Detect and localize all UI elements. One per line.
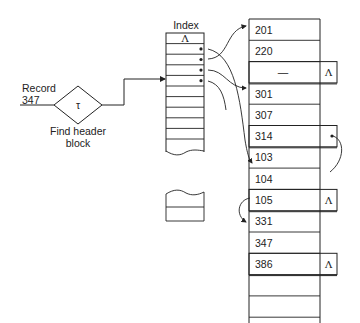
record-key: — (278, 66, 289, 78)
record-key: 301 (255, 88, 273, 100)
block-record-331: 331 (249, 215, 320, 232)
blocks-column: 201220Λ—301307314103104Λ105331347Λ386 (249, 19, 337, 323)
block-record-307: 307 (249, 109, 320, 126)
record-key: 331 (255, 215, 273, 227)
hash-to-index-arrow (102, 79, 165, 105)
block-record-201: 201 (249, 24, 320, 41)
hash-caption-line1: Find header (50, 125, 107, 137)
record-key: 386 (255, 258, 273, 270)
record-label: Record (22, 82, 56, 94)
index-upper-frame (166, 33, 204, 153)
block-record-301: 301 (249, 88, 320, 105)
block-record-104: 104 (249, 173, 320, 190)
pointer-arrow-row2 (208, 26, 246, 59)
record-key: 220 (255, 45, 273, 57)
null-pointer-marker: Λ (324, 259, 333, 270)
index-column: Λ (165, 33, 205, 222)
index-title: Index (173, 19, 199, 31)
block-record-105: Λ105 (249, 189, 337, 211)
overflow-arrow-314 (330, 136, 342, 172)
record-key: 201 (255, 24, 273, 36)
overflow-arrow-105 (239, 198, 250, 222)
block-record-314: 314 (249, 126, 337, 148)
pointer-arrow-row1 (208, 49, 252, 163)
hash-symbol: τ (76, 99, 81, 111)
record-key: 347 (255, 237, 273, 249)
record-key: 104 (255, 173, 273, 185)
block-record-103: 103 (249, 151, 320, 168)
index-pointer-dot (199, 58, 202, 61)
index-lower-wave (166, 190, 204, 195)
index-pointer-dot (199, 79, 202, 82)
block-record-386: Λ386 (249, 253, 337, 275)
pointer-arrow-row3 (208, 70, 246, 88)
block-record-347: 347 (249, 237, 320, 254)
pointer-dot (330, 134, 333, 137)
block-record-220: 220 (249, 45, 320, 62)
block-record-—: Λ— (249, 62, 337, 84)
record-key: 105 (255, 194, 273, 206)
index-pointer-dot (199, 47, 202, 50)
pointer-arrow-row4 (208, 81, 226, 110)
null-pointer-marker: Λ (324, 195, 333, 206)
index-pointer-dot (199, 69, 202, 72)
record-key: 103 (255, 151, 273, 163)
index-null-marker: Λ (180, 33, 189, 44)
null-pointer-marker: Λ (324, 67, 333, 78)
record-key: 314 (255, 130, 273, 142)
record-key: 307 (255, 109, 273, 121)
hash-caption-line2: block (66, 137, 91, 149)
record-number: 347 (22, 94, 40, 106)
hashed-index-diagram: Record 347 τ Find header block Index Λ 2… (0, 0, 360, 323)
